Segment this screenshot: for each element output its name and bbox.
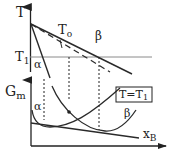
alpha-gibbs-curve <box>32 88 120 127</box>
xb-axis-label: xB <box>143 127 157 143</box>
t1-label: T1 <box>15 49 29 66</box>
condition-label: T=T1 <box>119 88 148 102</box>
alpha-label-bottom: α <box>34 100 42 113</box>
temperature-panel: T T1 To β α <box>15 4 152 78</box>
intersection-point <box>67 110 71 114</box>
beta-label-bottom: β <box>124 107 130 120</box>
phase-diagram: T T1 To β α Gm xB α β <box>0 0 174 158</box>
gibbs-energy-panel: Gm xB α β T=T1 <box>5 80 167 149</box>
beta-label-top: β <box>95 29 102 43</box>
alpha-label-top: α <box>34 58 42 71</box>
gm-axis-label: Gm <box>5 83 26 101</box>
xb-arrow-icon <box>158 143 167 149</box>
projection-lines <box>44 57 99 130</box>
t-axis-label: T <box>16 4 26 20</box>
t0-pointer <box>60 40 62 48</box>
t0-label: To <box>58 22 72 39</box>
